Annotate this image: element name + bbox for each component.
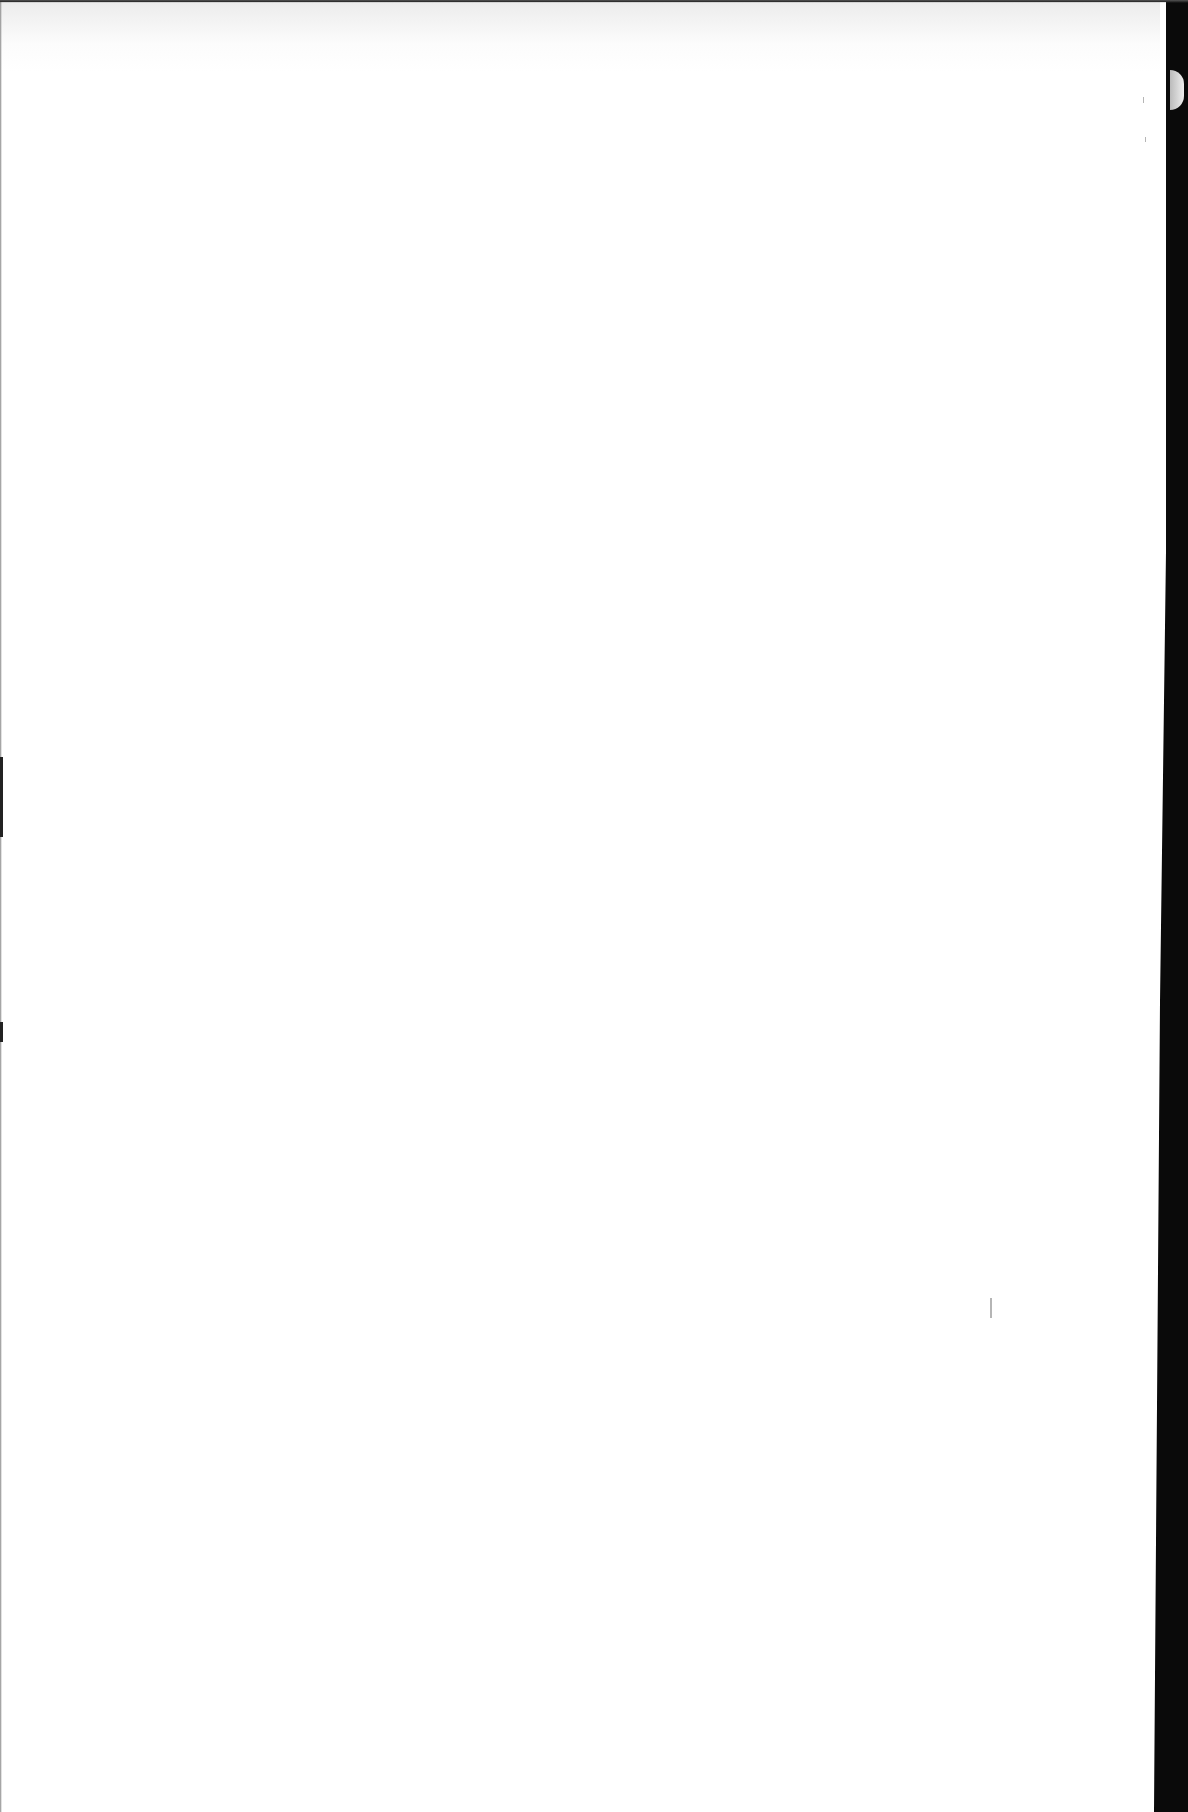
paper-speck xyxy=(1145,137,1146,142)
left-edge-mark xyxy=(0,1022,3,1042)
scanned-document xyxy=(0,0,1188,1812)
left-page-edge xyxy=(0,2,2,1812)
left-edge-mark xyxy=(0,757,3,837)
top-scan-shadow xyxy=(0,0,1188,3)
page-corner-curl xyxy=(1170,70,1184,110)
bleed-through-text-noise xyxy=(0,2,1160,72)
paper-speck xyxy=(1143,97,1144,103)
paper-speck xyxy=(990,1298,992,1318)
blank-page xyxy=(0,2,1166,1812)
